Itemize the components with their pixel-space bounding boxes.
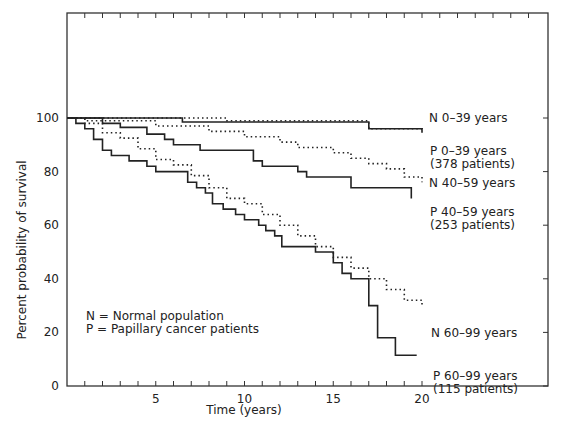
x-tick-label: 5: [152, 392, 160, 406]
series-label: P 0–39 years: [430, 144, 507, 158]
survival-chart: 5101520020406080100 N 0–39 yearsP 0–39 y…: [0, 0, 563, 433]
y-tick-label: 80: [44, 165, 59, 179]
y-tick-label: 100: [36, 111, 59, 125]
series-label: (115 patients): [433, 382, 518, 396]
series-label: (378 patients): [430, 157, 515, 171]
x-tick-label: 20: [414, 392, 429, 406]
curve-p-40-59-years-253-patients-: [67, 118, 411, 198]
series-label: P 60–99 years: [433, 369, 517, 383]
x-axis-label: Time (years): [205, 403, 282, 417]
y-axis-label: Percent probability of survival: [15, 160, 29, 339]
x-tick-label: 15: [326, 392, 341, 406]
series-labels: N 0–39 yearsP 0–39 years(378 patients)N …: [429, 111, 518, 396]
series-label: (253 patients): [430, 218, 515, 232]
series-label: N 60–99 years: [431, 326, 517, 340]
y-tick-label: 60: [44, 218, 59, 232]
curve-n-60-99-years: [67, 118, 422, 306]
series-label: N 0–39 years: [429, 111, 508, 125]
y-tick-label: 40: [44, 272, 59, 286]
series-label: P 40–59 years: [430, 205, 514, 219]
y-tick-label: 20: [44, 325, 59, 339]
y-tick-label: 0: [51, 379, 59, 393]
legend-normal: N = Normal population: [86, 309, 224, 323]
legend-papillary: P = Papillary cancer patients: [86, 322, 259, 336]
series-label: N 40–59 years: [429, 176, 515, 190]
